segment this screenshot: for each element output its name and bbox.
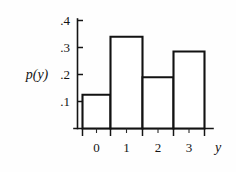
y-tick-label-0: .4 <box>60 13 70 28</box>
y-axis-title: p(y) <box>25 67 49 83</box>
x-tick-label-1: 1 <box>123 140 130 155</box>
x-axis-title: y <box>213 140 222 155</box>
x-tick-label-0: 0 <box>93 140 100 155</box>
bar-category-2 <box>143 77 174 128</box>
y-tick-label-3: .1 <box>60 94 70 109</box>
y-tick-label-1: .3 <box>60 40 70 55</box>
bar-category-0 <box>83 95 111 129</box>
x-tick-label-3: 3 <box>186 140 193 155</box>
y-tick-label-2: .2 <box>60 67 70 82</box>
chart-canvas: .4 .3 .2 .1 0 1 <box>0 0 236 172</box>
bar-category-1 <box>111 37 143 129</box>
x-tick-label-2: 2 <box>155 140 162 155</box>
probability-histogram-figure: .4 .3 .2 .1 0 1 <box>0 0 236 172</box>
bar-category-3 <box>174 52 205 129</box>
